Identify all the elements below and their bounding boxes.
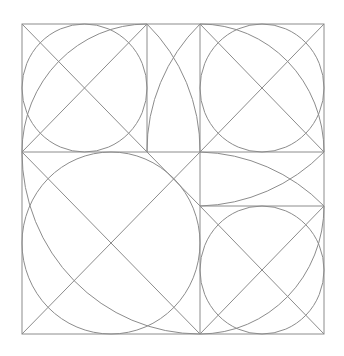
top-right-square: [200, 24, 324, 152]
geometric-construction-diagram: [0, 0, 344, 356]
right-strip-arc-b: [200, 152, 324, 206]
right-strip-arc-a: [200, 152, 324, 206]
middle-strip-arc-b: [147, 24, 200, 152]
bottom-right-square: [200, 206, 324, 334]
top-left-square: [22, 24, 147, 152]
middle-strip-arc-a: [147, 24, 200, 152]
